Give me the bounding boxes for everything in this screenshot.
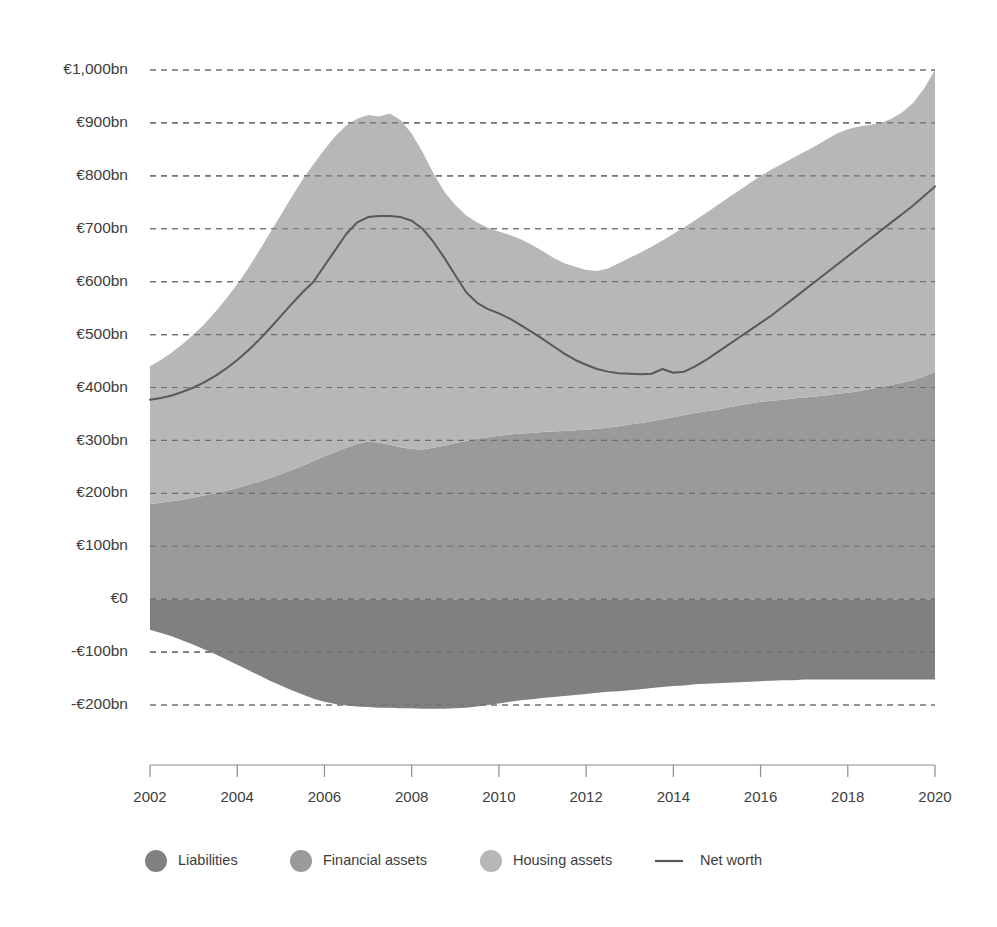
x-axis-group: 2002200420062008201020122014201620182020 [133,765,951,805]
legend-label: Net worth [700,852,762,868]
y-axis-tick-label: €600bn [76,272,128,289]
x-axis-tick-label: 2020 [918,788,951,805]
legend-label: Housing assets [513,852,612,868]
y-axis-tick-label: €300bn [76,431,128,448]
x-axis-tick-label: 2012 [569,788,602,805]
y-axis-tick-label: €900bn [76,113,128,130]
y-axis-tick-label: €400bn [76,378,128,395]
area-bands-group [150,70,935,709]
x-axis-tick-label: 2002 [133,788,166,805]
y-axis-labels-group: €1,000bn€900bn€800bn€700bn€600bn€500bn€4… [63,60,128,712]
legend-item-liabilities[interactable]: Liabilities [145,850,238,872]
y-axis-tick-label: €500bn [76,325,128,342]
x-axis-tick-label: 2016 [744,788,777,805]
x-axis-tick-label: 2006 [308,788,341,805]
stacked-area-chart: €1,000bn€900bn€800bn€700bn€600bn€500bn€4… [0,0,997,927]
y-axis-tick-label: -€200bn [71,695,128,712]
y-axis-tick-label: -€100bn [71,642,128,659]
x-axis-tick-label: 2008 [395,788,428,805]
y-axis-tick-label: €200bn [76,483,128,500]
legend-item-net-worth[interactable]: Net worth [655,852,762,868]
legend-label: Liabilities [178,852,238,868]
legend-label: Financial assets [323,852,427,868]
y-axis-tick-label: €1,000bn [63,60,128,77]
legend-swatch-circle-icon [145,850,167,872]
legend-item-financial-assets[interactable]: Financial assets [290,850,427,872]
x-axis-tick-label: 2010 [482,788,515,805]
chart-container: €1,000bn€900bn€800bn€700bn€600bn€500bn€4… [0,0,997,927]
y-axis-tick-label: €100bn [76,536,128,553]
y-axis-tick-label: €800bn [76,166,128,183]
legend-item-housing-assets[interactable]: Housing assets [480,850,612,872]
chart-legend: LiabilitiesFinancial assetsHousing asset… [145,850,762,872]
y-axis-tick-label: €0 [111,589,129,606]
x-axis-tick-label: 2004 [221,788,254,805]
legend-swatch-circle-icon [290,850,312,872]
legend-swatch-circle-icon [480,850,502,872]
y-axis-tick-label: €700bn [76,219,128,236]
x-axis-tick-label: 2018 [831,788,864,805]
area-band-liabilities [150,599,935,709]
x-axis-tick-label: 2014 [657,788,690,805]
